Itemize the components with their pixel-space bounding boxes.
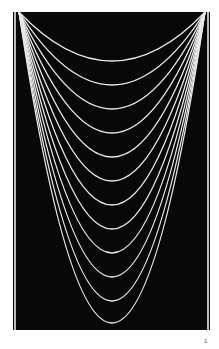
page-number: 1	[204, 338, 207, 344]
parabola-curve	[19, 12, 205, 277]
parabola-curves-graphic	[13, 12, 210, 330]
parabola-curve	[19, 12, 205, 61]
parabola-curve	[19, 12, 205, 229]
parabola-curve	[19, 12, 205, 133]
figure-panel	[13, 12, 210, 330]
